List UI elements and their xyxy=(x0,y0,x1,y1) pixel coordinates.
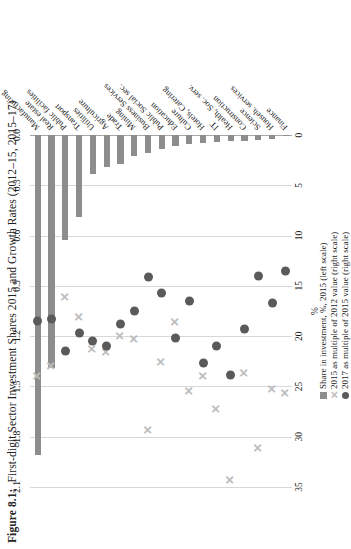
bar-investment-share xyxy=(283,135,289,137)
dot-marker-2017-multiple xyxy=(212,342,221,351)
dot-marker-2017-multiple xyxy=(88,337,97,346)
bar-investment-share xyxy=(131,135,137,156)
bar-investment-share xyxy=(241,135,247,141)
bar-investment-share xyxy=(48,135,54,368)
plot-area: ✕Manufacturing✕Real estate✕Public facili… xyxy=(30,135,292,487)
secondary-tick-label: 1.5 xyxy=(12,381,22,393)
cross-marker-2015-multiple: ✕ xyxy=(116,332,125,341)
dot-marker-2017-multiple xyxy=(240,325,249,334)
bar-investment-share xyxy=(159,135,165,149)
legend-label: 2017 as multiple of 2015 value (right sc… xyxy=(340,232,350,389)
cross-marker-2015-multiple: ✕ xyxy=(75,313,84,322)
dot-marker-2017-multiple xyxy=(254,271,263,280)
x-tick-label: 10 xyxy=(294,231,304,241)
cross-marker-2015-multiple: ✕ xyxy=(157,358,166,367)
bar-investment-share xyxy=(117,135,123,164)
dot-marker-2017-multiple xyxy=(171,333,180,342)
bar-investment-share xyxy=(200,135,206,143)
bar-investment-share xyxy=(228,135,234,141)
dot-marker-2017-multiple xyxy=(61,347,70,356)
x-tick-label: 0 xyxy=(294,133,304,138)
bar-investment-share xyxy=(76,135,82,217)
legend-label: 2015 as multiple of 2012 value (right sc… xyxy=(329,232,339,389)
dot-marker-2017-multiple xyxy=(33,317,42,326)
cross-marker-2015-multiple: ✕ xyxy=(144,426,153,435)
cross-marker-2015-multiple: ✕ xyxy=(226,476,235,485)
legend-item: ✕2015 as multiple of 2012 value (right s… xyxy=(329,232,339,399)
bar-investment-share xyxy=(172,135,178,146)
bar-investment-share xyxy=(104,135,110,167)
x-tick-label: 30 xyxy=(294,432,304,442)
dot-marker-2017-multiple xyxy=(144,273,153,282)
dot-marker-2017-multiple xyxy=(226,370,235,379)
cross-marker-2015-multiple: ✕ xyxy=(171,318,180,327)
secondary-axis-ticks: 0.00.30.60.91.21.51.82.1 xyxy=(12,135,28,487)
cross-marker-icon: ✕ xyxy=(331,392,338,399)
legend-item: Share in investment, %, 2015 (left scale… xyxy=(318,232,328,399)
x-tick-label: 35 xyxy=(294,482,304,492)
cross-marker-2015-multiple: ✕ xyxy=(33,372,42,381)
x-tick-label: 5 xyxy=(294,183,304,188)
bar-investment-share xyxy=(62,135,68,240)
secondary-tick-label: 1.2 xyxy=(12,330,22,342)
secondary-tick-label: 0.0 xyxy=(12,129,22,141)
secondary-tick-label: 0.3 xyxy=(12,179,22,191)
cross-marker-2015-multiple: ✕ xyxy=(281,389,290,398)
bar-swatch-icon xyxy=(320,392,327,399)
figure-number: Figure 8.1: xyxy=(6,488,18,543)
secondary-tick-label: 1.8 xyxy=(12,431,22,443)
cross-marker-2015-multiple: ✕ xyxy=(130,335,139,344)
dot-marker-2017-multiple xyxy=(281,266,290,275)
x-tick-label: 25 xyxy=(294,382,304,392)
gridline xyxy=(30,487,292,488)
bar-investment-share xyxy=(255,135,261,140)
chart-legend: Share in investment, %, 2015 (left scale… xyxy=(318,232,351,399)
bar-investment-share xyxy=(145,135,151,153)
cross-marker-2015-multiple: ✕ xyxy=(88,345,97,354)
dot-marker-2017-multiple xyxy=(130,307,139,316)
dot-marker-icon xyxy=(342,392,349,399)
dot-marker-2017-multiple xyxy=(268,298,277,307)
secondary-tick-label: 0.9 xyxy=(12,280,22,292)
bar-investment-share xyxy=(186,135,192,144)
legend-item: 2017 as multiple of 2015 value (right sc… xyxy=(340,232,350,399)
dot-marker-2017-multiple xyxy=(199,358,208,367)
bar-investment-share xyxy=(214,135,220,142)
x-tick-label: 15 xyxy=(294,281,304,291)
cross-marker-2015-multiple: ✕ xyxy=(240,369,249,378)
cross-marker-2015-multiple: ✕ xyxy=(185,387,194,396)
bar-investment-share xyxy=(269,135,275,139)
secondary-tick-label: 2.1 xyxy=(12,481,22,493)
legend-label: Share in investment, %, 2015 (left scale… xyxy=(318,243,328,389)
chart-row: ✕ xyxy=(278,135,293,487)
dot-marker-2017-multiple xyxy=(75,328,84,337)
dot-marker-2017-multiple xyxy=(185,296,194,305)
bar-investment-share xyxy=(90,135,96,174)
cross-marker-2015-multiple: ✕ xyxy=(47,362,56,371)
cross-marker-2015-multiple: ✕ xyxy=(212,405,221,414)
dot-marker-2017-multiple xyxy=(157,288,166,297)
dot-marker-2017-multiple xyxy=(47,315,56,324)
bar-investment-share xyxy=(35,135,41,455)
primary-axis-ticks: 05101520253035 xyxy=(294,135,310,487)
cross-marker-2015-multiple: ✕ xyxy=(61,293,70,302)
x-tick-label: 20 xyxy=(294,331,304,341)
secondary-tick-label: 0.6 xyxy=(12,230,22,242)
cross-marker-2015-multiple: ✕ xyxy=(199,372,208,381)
dot-marker-2017-multiple xyxy=(102,342,111,351)
cross-marker-2015-multiple: ✕ xyxy=(254,444,263,453)
dot-marker-2017-multiple xyxy=(116,320,125,329)
cross-marker-2015-multiple: ✕ xyxy=(268,385,277,394)
